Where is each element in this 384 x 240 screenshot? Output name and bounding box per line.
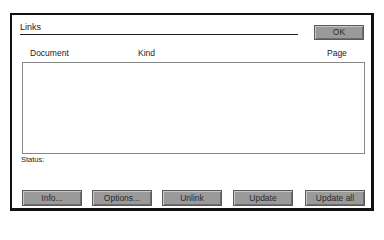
- info-button[interactable]: Info...: [22, 190, 82, 206]
- status-label: Status:: [21, 155, 44, 164]
- update-button-label: Update: [249, 191, 276, 205]
- unlink-button-label: Unlink: [180, 191, 204, 205]
- ok-button[interactable]: OK: [314, 25, 364, 40]
- update-all-button-label: Update all: [316, 191, 354, 205]
- links-list[interactable]: [22, 62, 365, 154]
- column-header-kind[interactable]: Kind: [138, 48, 155, 58]
- column-header-page[interactable]: Page: [327, 48, 347, 58]
- title-divider: [20, 34, 298, 35]
- options-button-label: Options...: [104, 191, 140, 205]
- ok-button-label: OK: [333, 26, 345, 39]
- dialog-title: Links: [20, 22, 41, 32]
- column-header-document[interactable]: Document: [30, 48, 69, 58]
- update-all-button[interactable]: Update all: [305, 190, 365, 206]
- options-button[interactable]: Options...: [92, 190, 152, 206]
- info-button-label: Info...: [41, 191, 62, 205]
- update-button[interactable]: Update: [233, 190, 293, 206]
- unlink-button[interactable]: Unlink: [162, 190, 222, 206]
